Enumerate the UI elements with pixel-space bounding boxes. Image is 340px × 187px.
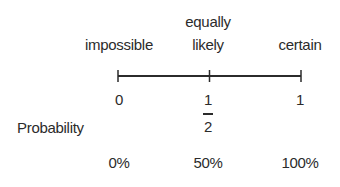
fraction-denominator: 2 [204, 118, 212, 135]
fraction-bar [203, 113, 213, 115]
percent-50: 50% [193, 154, 222, 171]
percent-100: 100% [281, 154, 318, 171]
number-zero: 0 [115, 91, 123, 108]
number-one: 1 [296, 91, 304, 108]
percent-0: 0% [108, 154, 129, 171]
probability-label: Probability [17, 119, 84, 136]
fraction-numerator: 1 [204, 91, 212, 108]
